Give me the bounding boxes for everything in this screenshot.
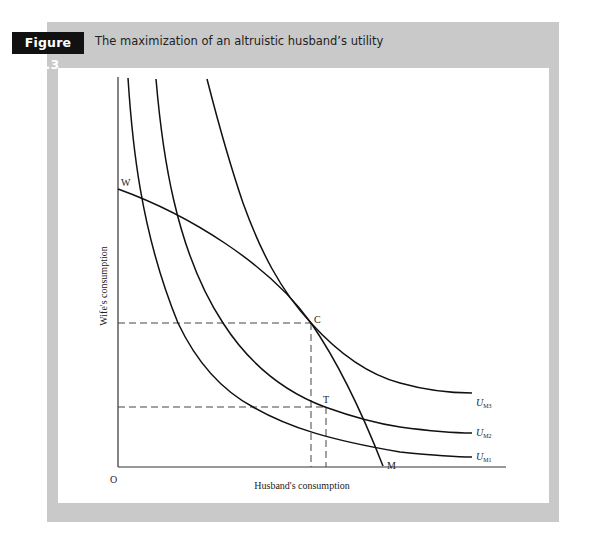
label-um3: UM3 xyxy=(476,397,492,409)
label-m: M xyxy=(387,460,396,471)
label-c: C xyxy=(314,314,321,325)
indifference-curve-um1 xyxy=(128,78,472,457)
indifference-curve-um2 xyxy=(156,79,472,433)
consumption-frontier-wm xyxy=(118,189,383,466)
y-axis-title: Wife's consumption xyxy=(98,246,109,325)
label-t: T xyxy=(323,394,329,405)
label-um2: UM2 xyxy=(476,427,492,439)
x-axis-title: Husband's consumption xyxy=(254,480,349,491)
economics-diagram: W C T M O UM3 UM2 UM1 Husband's consumpt… xyxy=(0,0,590,549)
label-w: W xyxy=(121,177,131,188)
label-origin: O xyxy=(110,474,117,485)
indifference-curve-um3 xyxy=(207,79,472,393)
label-um1: UM1 xyxy=(476,451,492,463)
